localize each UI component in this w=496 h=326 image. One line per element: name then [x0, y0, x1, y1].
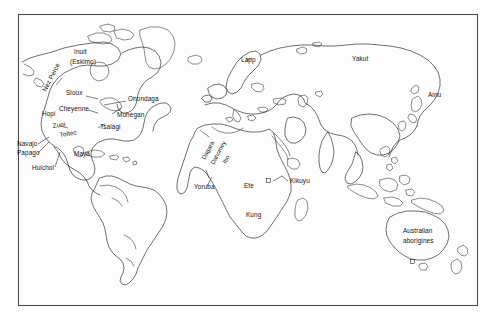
kikuyu-marker-square [267, 179, 271, 183]
coastline-australia [386, 211, 449, 260]
coastline-arabia [285, 117, 306, 143]
leader-cheyenne [88, 110, 98, 113]
coastline-asia-south [305, 103, 358, 155]
coastline-korea [398, 121, 406, 131]
leader-navajo [38, 137, 49, 144]
leader-lines-group [38, 58, 288, 186]
world-map-figure: Inuit (Eskimo) Nez Perce Sioux Cheyenne … [0, 0, 496, 326]
coastline-north-america-east [117, 47, 161, 113]
map-label-eskimo: (Eskimo) [70, 58, 96, 66]
coastline-iceland [188, 55, 202, 64]
leader-kikuyu [273, 176, 288, 181]
map-label-onondaga: Onondaga [128, 95, 159, 103]
coastline-tasmania [419, 263, 428, 270]
map-label-mohegan: Mohegan [117, 111, 145, 119]
world-map-svg: Inuit (Eskimo) Nez Perce Sioux Cheyenne … [0, 0, 496, 326]
map-label-inuit: Inuit [74, 48, 87, 55]
coastline-new-guinea [412, 198, 444, 214]
map-label-cheyenne: Cheyenne [59, 105, 89, 113]
coastline-japan [408, 85, 422, 123]
coastline-south-america-interior [100, 185, 136, 266]
map-label-australian: Australian [403, 227, 433, 234]
map-label-ibo: Ibo [222, 154, 232, 165]
leader-sioux [86, 96, 98, 99]
map-label-aborigines: aborigines [403, 237, 434, 245]
coastline-philippines [380, 146, 398, 171]
coastline-europe-west [202, 84, 227, 102]
map-label-navajo: Navajo [17, 140, 38, 148]
leader-huichol [55, 152, 60, 167]
map-label-yoruba: Yoruba [194, 183, 215, 190]
coastline-mediterranean-detail [226, 107, 268, 122]
coastline-horn-of-africa [288, 158, 300, 169]
leader-papago [38, 142, 49, 153]
map-label-maya: Maya [74, 150, 90, 158]
coastline-india [319, 132, 334, 173]
coastline-siberia-arctic [261, 44, 440, 126]
coastline-greenland [140, 27, 175, 69]
coastline-indonesia [348, 175, 415, 206]
coastline-africa [177, 124, 291, 238]
map-label-zuni: Zuni [52, 120, 66, 129]
coastline-alaska-aleutians [23, 64, 44, 87]
map-label-huichol: Huichol [32, 164, 54, 171]
coastline-baltic-black-sea [252, 83, 286, 105]
map-label-sioux: Sioux [66, 89, 83, 96]
leader-onondaga [104, 101, 126, 105]
coastline-novaya-zemlya [297, 42, 322, 54]
map-label-tsalagi: Tsalagi [100, 123, 121, 131]
coastline-new-zealand [451, 245, 468, 274]
coastline-europe-mediterranean [205, 94, 305, 114]
map-label-yakut: Yakut [352, 55, 368, 62]
tasmania-marker-square [411, 260, 415, 264]
coastline-arctic-islands [88, 24, 134, 44]
map-label-kung: Kung [246, 211, 262, 219]
coastline-caspian-aral [298, 91, 323, 107]
coastline-china-region [351, 114, 400, 155]
map-page: Inuit (Eskimo) Nez Perce Sioux Cheyenne … [0, 0, 496, 326]
map-label-efe: Efe [244, 182, 254, 189]
map-label-kikuyu: Kikuyu [290, 177, 310, 185]
coastline-madagascar [295, 198, 308, 221]
map-label-lapp: Lapp [241, 56, 256, 64]
coastline-north-africa-detail [200, 127, 243, 137]
coastline-south-america [91, 176, 167, 285]
coastline-southeast-asia [345, 152, 363, 184]
map-label-papago: Papago [17, 149, 40, 157]
map-label-hopi: Hopi [42, 110, 56, 118]
map-label-toltec: Toltec [59, 129, 78, 138]
map-label-ainu: Ainu [428, 91, 442, 98]
coastline-asia-east [389, 126, 417, 157]
